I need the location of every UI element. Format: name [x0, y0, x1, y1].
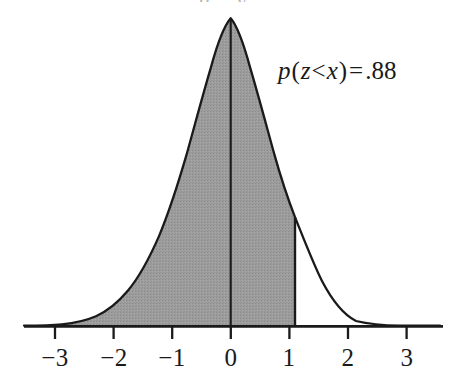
- annotation-less-than: <: [311, 57, 327, 84]
- annotation-value: .88: [364, 57, 397, 84]
- annotation-close-paren: ): [338, 57, 348, 84]
- tick-label--2: −2: [84, 345, 144, 370]
- annotation-p-symbol: p: [278, 57, 291, 84]
- annotation-open-paren: (: [291, 57, 301, 84]
- tick-label-2: 2: [318, 345, 378, 370]
- probability-annotation: p(z<x)=.88: [278, 57, 397, 85]
- x-axis-ticks: [55, 326, 407, 339]
- annotation-z-symbol: z: [301, 57, 311, 84]
- tick-label-1: 1: [259, 345, 319, 370]
- normal-distribution-figure: g y: [0, 0, 456, 382]
- annotation-x-symbol: x: [327, 57, 338, 84]
- tick-label--1: −1: [142, 345, 202, 370]
- tick-label-0: 0: [201, 345, 261, 370]
- annotation-equals: =: [348, 57, 364, 84]
- tick-label-3: 3: [377, 345, 437, 370]
- tick-label--3: −3: [25, 345, 85, 370]
- shaded-probability-area: [24, 18, 295, 326]
